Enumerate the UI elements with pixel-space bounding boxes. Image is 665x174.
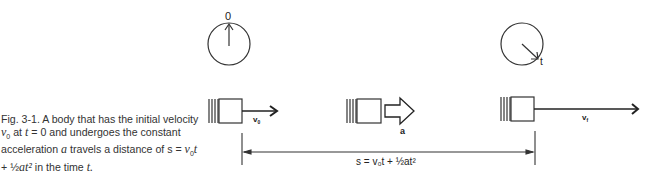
body-accelerating xyxy=(347,99,381,123)
body-final xyxy=(501,97,534,121)
vf-label: vf xyxy=(582,113,588,123)
acceleration-arrow-icon xyxy=(385,98,414,124)
acceleration-label: a xyxy=(400,126,406,136)
clock-start-icon xyxy=(208,23,250,65)
motion-diagram: 0 t v0 a vf xyxy=(0,0,665,174)
velocity-v0-arrow-icon xyxy=(242,106,277,116)
body-initial xyxy=(209,99,242,123)
v0-label: v0 xyxy=(253,115,260,125)
clock-start-label: 0 xyxy=(225,10,231,22)
clock-end-icon xyxy=(501,23,543,65)
clock-end-label: t xyxy=(540,56,543,67)
distance-formula: s = v₀t + ½at² xyxy=(356,156,416,167)
